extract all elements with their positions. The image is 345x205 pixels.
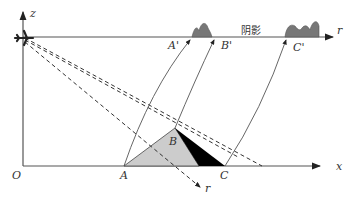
image-bump-c	[285, 22, 319, 37]
range-arcs	[124, 40, 286, 166]
point-c-label: C	[220, 170, 228, 181]
point-a-prime-label: A'	[168, 40, 179, 51]
aircraft-icon	[13, 29, 35, 47]
point-b-label: B	[169, 136, 177, 147]
image-bump-ab	[192, 23, 212, 37]
image-range-label: r	[337, 25, 342, 36]
x-axis-label: x	[336, 161, 342, 172]
slant-range-label: r	[205, 183, 210, 194]
point-a-label: A	[120, 170, 128, 181]
radar-shadow-diagram	[0, 0, 345, 205]
origin-label: O	[12, 170, 21, 181]
point-c-prime-label: C'	[293, 42, 304, 53]
point-b-prime-label: B'	[221, 40, 232, 51]
z-axis-label: z	[30, 8, 36, 19]
shadow-label: 阴影	[241, 26, 261, 36]
